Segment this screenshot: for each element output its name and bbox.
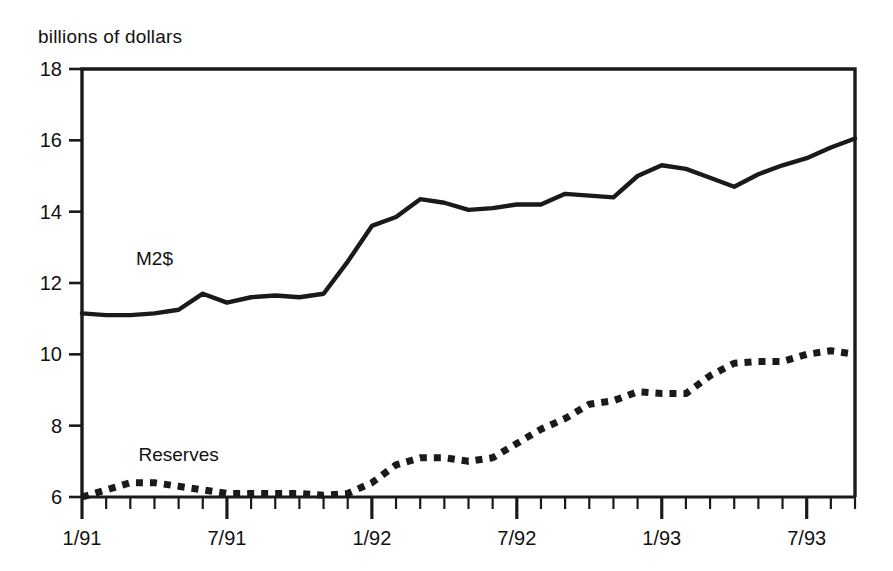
x-axis-tick-label: 1/91 — [63, 527, 102, 549]
y-axis-tick-label: 18 — [40, 58, 62, 80]
series-label-reserves: Reserves — [139, 444, 219, 465]
x-axis-tick-label: 7/93 — [787, 527, 826, 549]
x-axis-tick-label: 1/92 — [352, 527, 391, 549]
x-axis-tick-label: 7/92 — [497, 527, 536, 549]
line-chart-plot: 681012141618 1/917/911/927/921/937/93 M2… — [0, 0, 893, 571]
y-axis-tick-label: 8 — [51, 415, 62, 437]
x-axis-tick-label: 7/91 — [207, 527, 246, 549]
y-axis-tick-label: 16 — [40, 129, 62, 151]
chart-figure: billions of dollars 681012141618 1/917/9… — [0, 0, 893, 571]
series-label-m2: M2$ — [136, 248, 173, 269]
y-axis-tick-group: 681012141618 — [40, 58, 82, 508]
y-axis-tick-label: 12 — [40, 272, 62, 294]
series-label-group: M2$Reserves — [136, 248, 219, 465]
y-axis-tick-label: 14 — [40, 201, 62, 223]
series-line-reserves — [82, 351, 855, 497]
y-axis-tick-label: 10 — [40, 343, 62, 365]
plot-frame — [82, 69, 855, 497]
y-axis-tick-label: 6 — [51, 486, 62, 508]
x-axis-tick-group: 1/917/911/927/921/937/93 — [63, 497, 855, 549]
data-series-group — [82, 139, 855, 497]
series-line-m2 — [82, 139, 855, 316]
x-axis-tick-label: 1/93 — [642, 527, 681, 549]
y-axis-title: billions of dollars — [38, 26, 182, 48]
